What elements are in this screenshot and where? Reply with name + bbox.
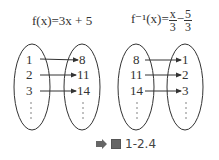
domain-value: 3 xyxy=(26,83,33,98)
range-value: 14 xyxy=(77,83,91,98)
left-mapping: 1 2 3 8 11 14 xyxy=(14,44,100,130)
range-value: 2 xyxy=(182,67,189,82)
range-value: 8 xyxy=(79,52,86,67)
domain-value: 8 xyxy=(133,52,140,67)
arrow-right-icon xyxy=(96,139,107,149)
range-value: 1 xyxy=(182,52,189,67)
figure-label: 1-2.4 xyxy=(125,137,156,151)
figure-caption: 1-2.4 xyxy=(96,137,156,151)
mapping-diagrams: 1 2 3 8 11 14 8 11 14 1 2 3 xyxy=(0,0,219,160)
domain-value: 11 xyxy=(130,67,143,82)
domain-value: 14 xyxy=(130,83,144,98)
range-value: 3 xyxy=(182,83,189,98)
ellipsis-dots xyxy=(30,102,83,118)
ellipsis-dots xyxy=(136,102,186,118)
right-mapping: 8 11 14 1 2 3 xyxy=(118,44,203,130)
range-value: 11 xyxy=(77,67,90,82)
domain-value: 1 xyxy=(26,52,33,67)
domain-value: 2 xyxy=(26,67,33,82)
image-icon xyxy=(111,139,121,149)
